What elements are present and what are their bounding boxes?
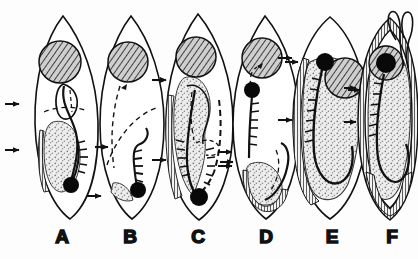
panel-B-nucleus (108, 42, 148, 82)
panel-label-D: D (259, 226, 273, 247)
developmental-series-diagram: A B (0, 0, 418, 259)
panel-A-black-dot (63, 177, 79, 193)
panel-A: A (5, 16, 98, 247)
panel-label-F: F (386, 226, 398, 247)
panel-label-B: B (123, 226, 137, 247)
panel-C-black-dot (190, 188, 208, 206)
panel-F-black-dot (376, 53, 396, 73)
panel-E-black-dot (316, 53, 334, 71)
panel-D-nucleus (242, 38, 282, 78)
figure-root: A B (0, 0, 418, 259)
panel-B-black-dot (130, 182, 146, 198)
panel-label-E: E (326, 226, 339, 247)
panel-label-A: A (55, 226, 69, 247)
panel-label-C: C (191, 226, 205, 247)
panel-C-nucleus (176, 37, 216, 77)
panel-D-black-dot (244, 82, 260, 98)
panel-A-nucleus (39, 41, 81, 83)
